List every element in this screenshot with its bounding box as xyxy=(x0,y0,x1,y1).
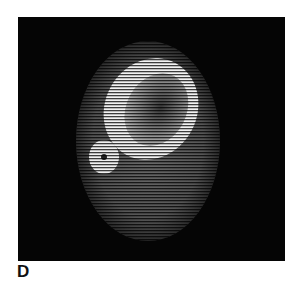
figure-panel: D xyxy=(0,0,303,285)
ct-scan-graphic xyxy=(18,17,285,261)
ct-scan-image xyxy=(18,17,285,261)
panel-label: D xyxy=(17,263,29,280)
